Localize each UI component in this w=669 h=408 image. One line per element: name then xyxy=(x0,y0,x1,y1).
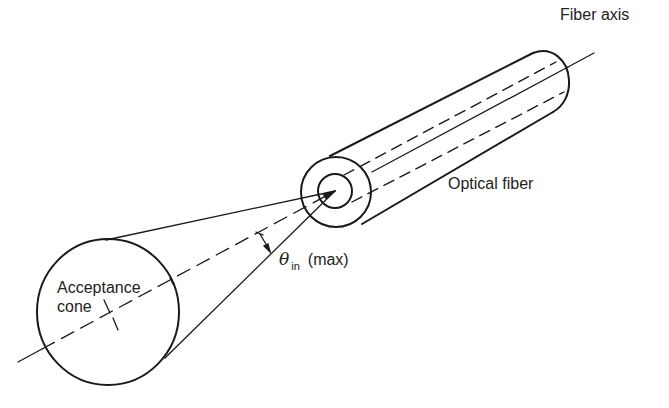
cone-center-tick-dash xyxy=(113,318,118,330)
acceptance-cone-label: Acceptance cone xyxy=(57,278,141,316)
theta-subscript: in xyxy=(291,260,300,272)
fiber-diagram xyxy=(0,0,669,408)
angle-indicator xyxy=(256,232,270,252)
acceptance-cone-label-line1: Acceptance xyxy=(57,278,141,297)
theta-symbol: θ xyxy=(279,249,289,269)
cladding-end-face xyxy=(301,157,371,227)
theta-in-max-label: θin(max) xyxy=(279,251,349,268)
optical-fiber-label: Optical fiber xyxy=(448,176,533,192)
fiber-cylinder xyxy=(330,51,569,224)
fiber-axis-label: Fiber axis xyxy=(560,7,629,23)
acceptance-cone-label-line2: cone xyxy=(57,297,141,316)
theta-suffix: (max) xyxy=(308,251,349,268)
